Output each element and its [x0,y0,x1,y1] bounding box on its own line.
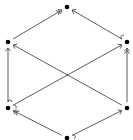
nodes [6,5,130,140]
hook-tail [121,35,124,39]
arrow-lower-left-to-upper-left [5,48,12,102]
node-upper-right [125,40,130,45]
node-upper-left [6,40,11,45]
node-lower-left [6,106,11,111]
arrow-bottom-to-lower-right [72,110,121,139]
edges [5,9,129,138]
arrow-lower-right-to-upper-right [124,48,129,102]
arrow-bottom-to-lower-left [13,110,61,135]
arrow-upper-right-to-top [72,9,124,39]
hook-tail [13,105,16,109]
hook-tail [8,100,12,102]
node-lower-right [125,106,130,111]
node-bottom [65,136,70,140]
hook-tail [72,135,75,139]
commutative-diagram [0,0,133,140]
node-top [65,5,70,10]
arrow-upper-left-to-top [13,9,62,38]
